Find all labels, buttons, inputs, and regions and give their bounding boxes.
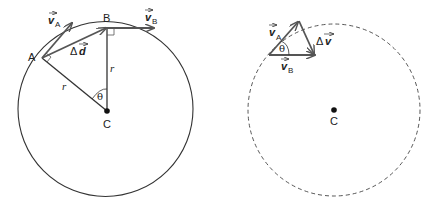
label-delta: Δ	[316, 35, 324, 47]
label-d: d	[79, 45, 86, 57]
label-v-b-subscript: B	[288, 66, 293, 75]
point-label-b: B	[103, 12, 110, 24]
label-radius-cb: r	[110, 62, 115, 74]
label-v-a: v	[269, 26, 276, 38]
label-v-b: v	[281, 60, 288, 72]
label-delta: Δ	[70, 45, 78, 57]
center-point-dot	[104, 108, 110, 114]
label-v-a: v	[48, 14, 55, 26]
circular-motion-diagram: A B C v A v B Δ d r r θ C v A	[0, 0, 437, 209]
radius-line-ca	[42, 58, 107, 111]
point-label-c: C	[330, 115, 338, 127]
label-v-a-subscript: A	[276, 33, 282, 42]
label-radius-ca: r	[62, 80, 67, 92]
point-label-c: C	[103, 118, 111, 130]
left-panel: A B C v A v B Δ d r r θ	[18, 10, 193, 197]
label-v-b: v	[145, 11, 152, 23]
delta-v-vector	[299, 21, 314, 54]
right-angle-marker-b	[107, 28, 114, 35]
right-panel: C v A θ v B Δ v	[248, 21, 420, 196]
label-v-a-subscript: A	[55, 20, 61, 29]
label-v-b-subscript: B	[152, 17, 157, 26]
label-angle-theta: θ	[97, 91, 103, 102]
center-point-dot	[331, 107, 337, 113]
point-label-a: A	[28, 51, 36, 63]
label-v: v	[325, 35, 332, 47]
label-angle-theta: θ	[279, 43, 285, 54]
